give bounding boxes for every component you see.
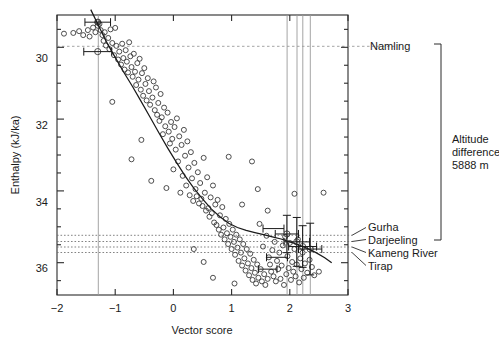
altitude-difference-line3: 5888 m: [452, 159, 489, 171]
data-point: [298, 256, 303, 261]
data-point: [61, 31, 66, 36]
altitude-difference-line1: Altitude: [452, 133, 489, 145]
namling-annotation-label: Namling: [370, 40, 410, 52]
data-point: [270, 248, 275, 253]
data-point: [177, 134, 182, 139]
data-point: [145, 76, 150, 81]
data-point: [124, 59, 129, 64]
data-point: [164, 186, 169, 191]
y-tick-label-34: 34: [36, 196, 48, 208]
data-point: [229, 247, 234, 252]
data-point: [278, 276, 283, 281]
data-point: [265, 276, 270, 281]
data-point: [181, 127, 186, 132]
error-bars-layer: [84, 18, 322, 275]
data-point: [139, 71, 144, 76]
data-point: [321, 190, 326, 195]
data-point: [77, 29, 82, 34]
data-point: [271, 274, 276, 279]
data-point: [202, 190, 207, 195]
data-point: [172, 125, 177, 130]
data-point: [113, 25, 118, 30]
data-point: [207, 214, 212, 219]
data-point: [146, 89, 151, 94]
data-point: [155, 112, 160, 117]
x-tick-label--2: −2: [51, 302, 64, 314]
data-point: [149, 178, 154, 183]
data-point: [85, 28, 90, 33]
data-point: [153, 85, 158, 90]
data-point: [132, 69, 137, 74]
data-point: [174, 116, 179, 121]
x-tick-label-3: 3: [345, 302, 351, 314]
data-point: [265, 208, 270, 213]
kameng-river-annotation-label: Kameng River: [368, 247, 438, 259]
data-point: [243, 268, 248, 273]
data-point: [106, 35, 111, 40]
data-point: [255, 187, 260, 192]
data-point: [186, 165, 191, 170]
altitude-difference-line2: difference: [452, 146, 499, 158]
data-point: [129, 65, 134, 70]
data-point: [138, 87, 143, 92]
data-point: [208, 195, 213, 200]
x-tick-label-2: 2: [287, 302, 293, 314]
data-point: [301, 275, 306, 280]
data-point: [249, 159, 254, 164]
x-tick-label-1: 1: [229, 302, 235, 314]
data-point: [288, 277, 293, 282]
data-point: [291, 269, 296, 274]
y-axis-ticks: [57, 29, 348, 280]
data-point: [201, 259, 206, 264]
data-point: [81, 33, 86, 38]
data-point: [136, 77, 141, 82]
data-point: [226, 242, 231, 247]
data-point: [71, 30, 76, 35]
data-point: [163, 124, 168, 129]
data-point: [93, 30, 98, 35]
enthalpy-vector-score-scatter-figure: −2 −1 0 1 2 3 30 32 34 36 Vector score E…: [0, 0, 499, 344]
data-point: [248, 251, 253, 256]
data-point: [228, 234, 233, 239]
data-point: [210, 183, 215, 188]
data-point: [179, 142, 184, 147]
data-point: [184, 183, 189, 188]
data-point: [220, 205, 225, 210]
data-point: [221, 225, 226, 230]
data-point: [241, 242, 246, 247]
data-point: [205, 175, 210, 180]
x-tick-label--1: −1: [109, 302, 122, 314]
data-point: [130, 74, 135, 79]
y-tick-label-32: 32: [36, 119, 48, 131]
data-point: [263, 282, 268, 287]
data-point: [222, 237, 227, 242]
data-point: [251, 257, 256, 262]
data-point: [131, 51, 136, 56]
data-point: [143, 81, 148, 86]
y-tick-labels: 30 32 34 36: [36, 52, 48, 274]
data-point: [236, 258, 241, 263]
data-point: [128, 54, 133, 59]
data-point: [215, 197, 220, 202]
data-point: [150, 95, 155, 100]
data-point: [201, 155, 206, 160]
data-point: [137, 56, 142, 61]
data-point: [240, 202, 245, 207]
data-point: [252, 270, 257, 275]
data-point: [268, 262, 273, 267]
data-point: [142, 66, 147, 71]
data-point: [169, 119, 174, 124]
x-tick-label-0: 0: [170, 302, 176, 314]
data-point: [235, 245, 240, 250]
data-point: [198, 181, 203, 186]
data-point: [240, 263, 245, 268]
data-point: [152, 108, 157, 113]
data-point: [158, 91, 163, 96]
chart-svg: −2 −1 0 1 2 3 30 32 34 36 Vector score E…: [0, 0, 499, 344]
data-point: [213, 202, 218, 207]
data-point: [273, 279, 278, 284]
data-point: [233, 252, 238, 257]
gurha-annotation-label: Gurha: [368, 221, 399, 233]
data-point: [87, 34, 92, 39]
data-point: [123, 48, 128, 53]
